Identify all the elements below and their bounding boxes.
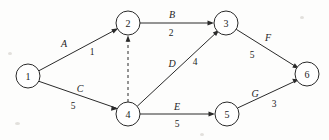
- node-4-label: 4: [126, 109, 131, 120]
- edge-E-weight: 5: [175, 119, 180, 129]
- node-3[interactable]: 3: [214, 11, 238, 35]
- diagram-canvas: A 1 C 5 B 2 D 4: [0, 0, 329, 140]
- edge-A-weight: 1: [90, 47, 95, 57]
- edge-C-weight: 5: [71, 101, 76, 111]
- edge-G-label: G: [251, 88, 258, 99]
- node-5[interactable]: 5: [215, 102, 239, 126]
- edge-G[interactable]: G 3: [238, 79, 300, 109]
- edge-D-label: D: [167, 58, 176, 69]
- node-4[interactable]: 4: [116, 102, 140, 126]
- node-3-label: 3: [224, 18, 229, 29]
- edge-D[interactable]: D 4: [137, 30, 219, 107]
- node-5-label: 5: [225, 109, 230, 120]
- edge-dummy-arrowhead: [126, 35, 131, 42]
- edge-F[interactable]: F 5: [236, 29, 299, 68]
- edge-D-line: [137, 31, 217, 106]
- edge-B-label: B: [169, 9, 175, 20]
- edge-C[interactable]: C 5: [39, 81, 118, 111]
- edge-A-line: [39, 29, 117, 71]
- node-2-label: 2: [126, 18, 131, 29]
- network-diagram: A 1 C 5 B 2 D 4: [0, 0, 329, 140]
- edge-G-line: [238, 80, 298, 108]
- node-1-label: 1: [26, 71, 31, 82]
- edge-dummy[interactable]: [126, 35, 131, 102]
- edge-A[interactable]: A 1: [39, 28, 119, 71]
- edge-F-label: F: [264, 32, 272, 43]
- edge-B[interactable]: B 2: [140, 9, 214, 39]
- edge-B-weight: 2: [169, 28, 174, 38]
- node-6-label: 6: [305, 69, 310, 80]
- edge-A-label: A: [60, 38, 68, 49]
- edge-G-weight: 3: [272, 99, 277, 109]
- node-6[interactable]: 6: [295, 62, 319, 86]
- edge-C-label: C: [77, 83, 84, 94]
- edge-B-arrowhead: [208, 21, 215, 26]
- node-2[interactable]: 2: [116, 11, 140, 35]
- edge-E-arrowhead: [209, 112, 216, 117]
- edge-F-weight: 5: [250, 50, 255, 60]
- edge-E-label: E: [173, 101, 180, 112]
- edge-E[interactable]: E 5: [140, 101, 215, 130]
- node-1[interactable]: 1: [16, 64, 40, 88]
- edge-D-weight: 4: [193, 57, 198, 67]
